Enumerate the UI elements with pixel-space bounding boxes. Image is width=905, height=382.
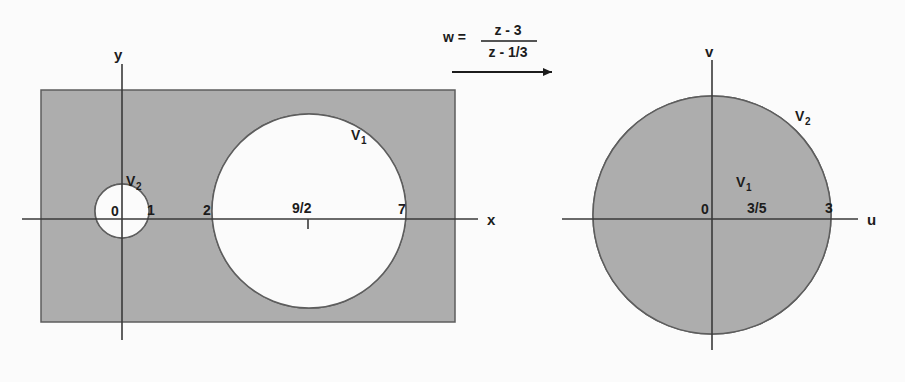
left-tick-label-7: 7	[398, 201, 406, 217]
right-label-V2-base: V	[795, 108, 805, 124]
right-tick-label-3: 3	[825, 200, 833, 216]
right-label-V1-sub: 1	[746, 182, 752, 193]
diagram-canvas: w = z - 3 z - 1/3 y x 0 1	[0, 0, 905, 382]
left-y-axis-label: y	[114, 46, 123, 63]
left-plane-panel: y x 0 1 2 9/2 7 V 2 V 1	[22, 46, 496, 340]
left-tick-label-0: 0	[111, 203, 119, 219]
map-arrow-icon	[452, 68, 552, 76]
left-label-V2-base: V	[126, 173, 136, 189]
right-u-axis-label: u	[867, 211, 876, 228]
left-label-V2-sub: 2	[136, 181, 142, 192]
right-label-V2: V 2	[795, 108, 811, 127]
transformation-formula: w = z - 3 z - 1/3	[442, 22, 552, 76]
left-tick-label-9-2: 9/2	[292, 200, 312, 216]
right-label-V1-base: V	[736, 174, 746, 190]
figure-root: w = z - 3 z - 1/3 y x 0 1	[0, 0, 905, 382]
formula-denominator: z - 1/3	[489, 44, 528, 60]
left-label-V1-base: V	[351, 127, 361, 143]
formula-numerator: z - 3	[494, 22, 521, 38]
left-x-axis-label: x	[487, 211, 496, 228]
left-label-V1-sub: 1	[361, 135, 367, 146]
right-tick-label-0: 0	[701, 201, 709, 217]
right-v-axis-label: v	[705, 43, 714, 60]
right-plane-panel: v u 0 3/5 3 V 1 V 2	[562, 43, 876, 350]
left-tick-label-1: 1	[147, 202, 155, 218]
left-tick-label-2: 2	[203, 202, 211, 218]
formula-lhs: w =	[442, 29, 466, 45]
right-label-V2-sub: 2	[805, 116, 811, 127]
right-tick-label-3-5: 3/5	[747, 200, 767, 216]
